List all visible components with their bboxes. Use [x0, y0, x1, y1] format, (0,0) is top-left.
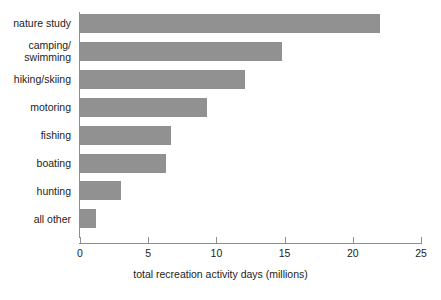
x-tick-label: 25 [401, 247, 441, 259]
bar [80, 181, 121, 200]
x-tick [216, 237, 217, 243]
bar-row: motoring [0, 93, 441, 121]
bar-chart: nature studycamping/ swimminghiking/skii… [0, 0, 441, 300]
category-label: all other [0, 214, 71, 226]
y-axis-line [79, 12, 80, 238]
x-tick-label: 20 [333, 247, 373, 259]
bar [80, 98, 207, 117]
bar [80, 42, 282, 61]
category-label: motoring [0, 102, 71, 114]
bar-row: nature study [0, 10, 441, 38]
category-label: camping/ swimming [0, 40, 71, 63]
bar-row: fishing [0, 121, 441, 149]
x-tick-label: 5 [128, 247, 168, 259]
x-tick [80, 237, 81, 243]
x-tick [353, 237, 354, 243]
x-tick-label: 15 [265, 247, 305, 259]
category-label: hunting [0, 186, 71, 198]
bar-row: all other [0, 205, 441, 233]
category-label: nature study [0, 18, 71, 30]
x-axis-line [79, 243, 422, 244]
x-axis-title: total recreation activity days (millions… [0, 268, 441, 280]
category-label: hiking/skiing [0, 74, 71, 86]
x-tick-label: 0 [60, 247, 100, 259]
bar-row: hiking/skiing [0, 65, 441, 93]
bar [80, 154, 166, 173]
plot-area: nature studycamping/ swimminghiking/skii… [0, 0, 441, 300]
bar [80, 14, 380, 33]
bar-row: hunting [0, 177, 441, 205]
x-tick [421, 237, 422, 243]
x-tick [285, 237, 286, 243]
category-label: boating [0, 158, 71, 170]
x-tick-label: 10 [196, 247, 236, 259]
bar [80, 126, 171, 145]
x-tick [148, 237, 149, 243]
bar-row: camping/ swimming [0, 37, 441, 65]
bar-row: boating [0, 149, 441, 177]
bar [80, 70, 245, 89]
category-label: fishing [0, 130, 71, 142]
bar [80, 209, 96, 228]
